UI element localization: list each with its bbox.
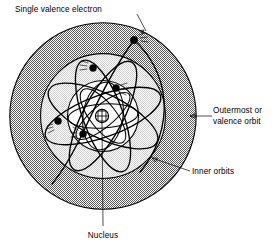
atom-diagram-figure: Single valence electron Outermost or val… bbox=[0, 0, 277, 244]
leader-valence-electron bbox=[137, 14, 146, 31]
atom-diagram-svg: Single valence electron Outermost or val… bbox=[0, 0, 277, 244]
label-outermost-orbit-line1: Outermost or bbox=[213, 106, 262, 115]
label-nucleus: Nucleus bbox=[88, 231, 118, 240]
label-single-valence-electron: Single valence electron bbox=[15, 5, 102, 14]
label-outermost-orbit-line2: valence orbit bbox=[213, 117, 261, 126]
label-inner-orbits: Inner orbits bbox=[192, 167, 234, 176]
